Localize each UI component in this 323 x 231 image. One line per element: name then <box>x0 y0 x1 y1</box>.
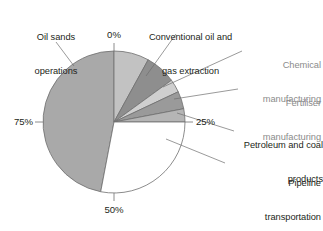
slice-label-oil-sands-operations-line1: Oil sands <box>14 32 98 43</box>
slice-label-oil-sands-operations: Oil sands operations <box>14 10 98 100</box>
slice-label-petroleum-line1: Petroleum and coal <box>203 140 323 151</box>
slice-label-oil-sands-operations-line2: operations <box>14 66 98 77</box>
pie-slice-remainder <box>101 122 185 193</box>
axis-tick-label-left: 75% <box>0 116 33 127</box>
slice-label-chemical-line1: Chemical <box>203 60 321 71</box>
axis-tick-label-bottom: 50% <box>94 204 134 215</box>
axis-tick-label-right: 25% <box>196 116 230 127</box>
pie-chart-figure: Oil sands operations Conventional oil an… <box>0 0 323 231</box>
slice-label-fertiliser-line1: Fertiliser <box>203 98 321 109</box>
axis-tick-label-top: 0% <box>94 29 134 40</box>
slice-label-pipeline-line1: Pipeline <box>203 178 321 189</box>
slice-label-pipeline-transportation: Pipeline transportation <box>203 156 321 231</box>
slice-label-pipeline-line2: transportation <box>203 212 321 223</box>
